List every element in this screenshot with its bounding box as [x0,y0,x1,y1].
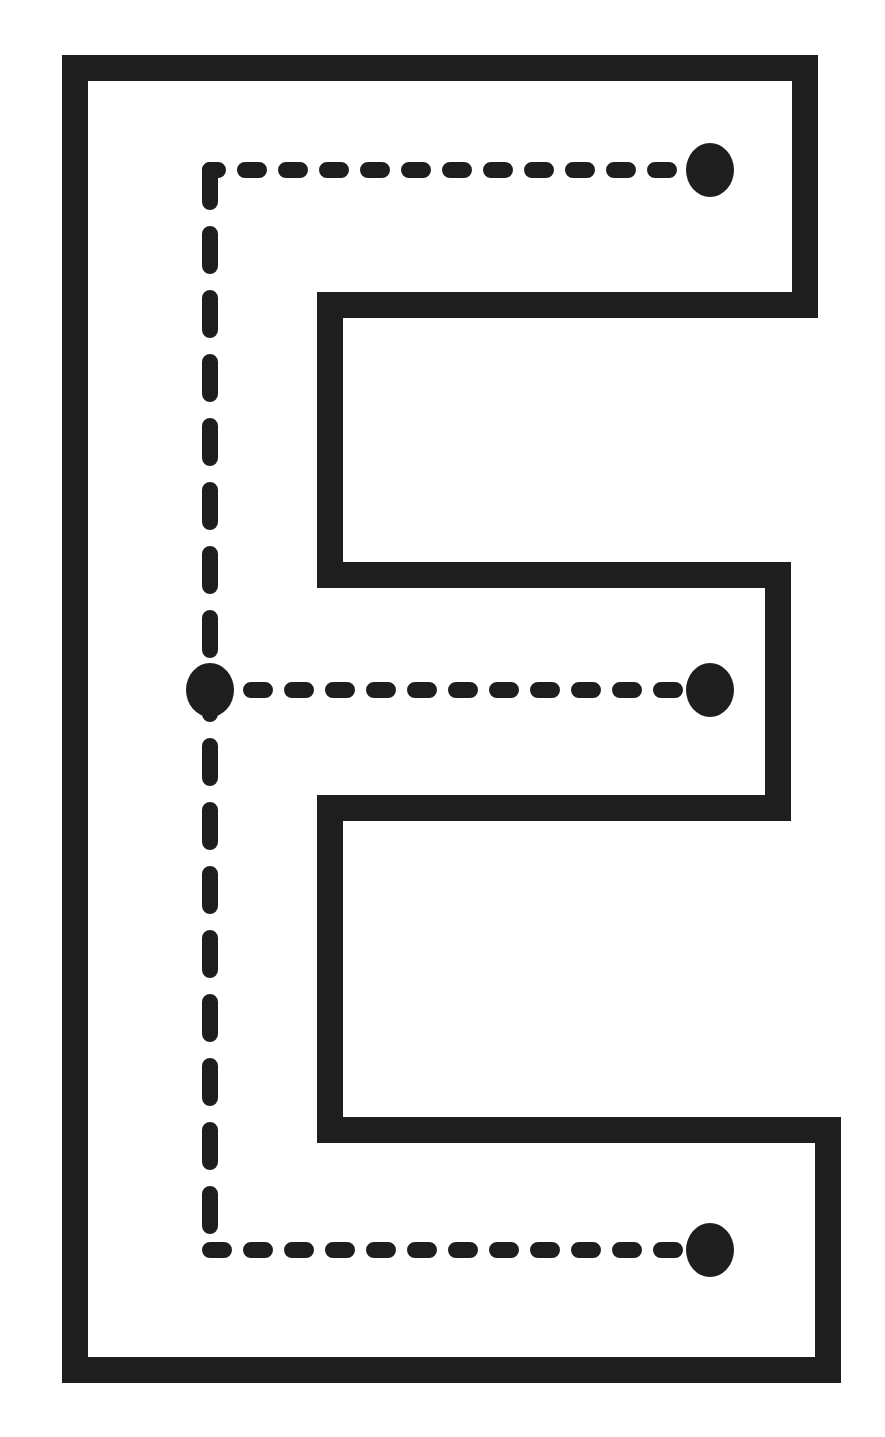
letter-e-outline [75,68,828,1370]
letter-e-tracing-worksheet [0,0,885,1437]
dot-middle-left-icon [186,663,234,717]
letter-e-graphic [0,0,885,1437]
dot-middle-right-icon [686,663,734,717]
dot-top-right-icon [686,143,734,197]
dot-bottom-right-icon [686,1223,734,1277]
tracing-guides [210,170,710,1250]
